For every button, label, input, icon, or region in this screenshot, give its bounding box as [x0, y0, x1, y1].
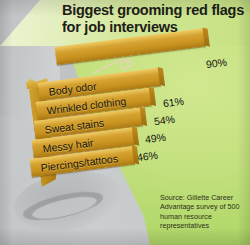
source-note: Source: Gillette Career Advantage survey…: [160, 193, 248, 231]
bar-value: 49%: [144, 130, 167, 147]
infographic-root: Biggest grooming red flags for job inter…: [0, 0, 250, 245]
bar-fill: [55, 31, 206, 65]
bar-value: 46%: [136, 148, 159, 165]
bar-value: 54%: [153, 112, 176, 129]
table-row: [55, 31, 206, 65]
bar-value: 61%: [162, 94, 185, 111]
bar-value: [138, 168, 140, 183]
bar-value: 90%: [205, 55, 228, 72]
